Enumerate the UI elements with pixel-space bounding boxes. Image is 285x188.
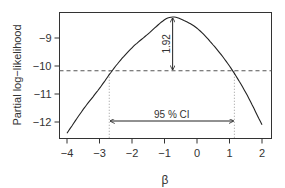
likelihood-chart: −4−3−2−1012 −9−10−11−12 β Partial log−li… [0, 0, 285, 188]
x-tick-label: −3 [93, 147, 106, 159]
x-tick-label: −4 [61, 147, 74, 159]
ci-label: 95 % CI [154, 109, 190, 120]
x-axis: −4−3−2−1012 [61, 139, 265, 159]
y-axis: −9−10−11−12 [33, 32, 60, 128]
drop-label: 1.92 [161, 34, 172, 54]
y-tick-label: −10 [33, 60, 52, 72]
x-tick-label: 0 [194, 147, 200, 159]
y-axis-label: Partial log−likelihood [11, 24, 23, 125]
y-tick-label: −9 [39, 32, 52, 44]
y-tick-label: −11 [34, 88, 52, 100]
x-axis-label: β [162, 173, 169, 187]
x-tick-label: 2 [259, 147, 265, 159]
y-tick-label: −12 [33, 116, 52, 128]
x-tick-label: 1 [226, 147, 232, 159]
x-tick-label: −2 [126, 147, 139, 159]
x-tick-label: −1 [158, 147, 171, 159]
